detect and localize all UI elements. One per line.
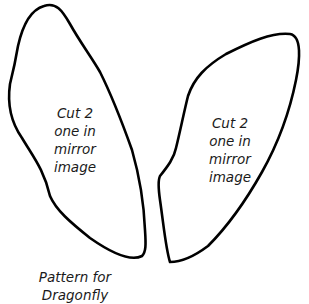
instruction-line: Cut 2 [40, 104, 110, 122]
instruction-line: Cut 2 [195, 114, 265, 132]
instruction-line: mirror [195, 150, 265, 168]
instruction-line: mirror [40, 140, 110, 158]
instruction-line: one in [40, 122, 110, 140]
instruction-line: image [40, 158, 110, 176]
right-wing-instructions: Cut 2 one in mirror image [195, 114, 265, 186]
left-wing-instructions: Cut 2 one in mirror image [40, 104, 110, 176]
caption-line: Dragonfly [20, 286, 130, 304]
instruction-line: image [195, 168, 265, 186]
instruction-line: one in [195, 132, 265, 150]
pattern-caption: Pattern for Dragonfly [20, 268, 130, 304]
caption-line: Pattern for [20, 268, 130, 286]
